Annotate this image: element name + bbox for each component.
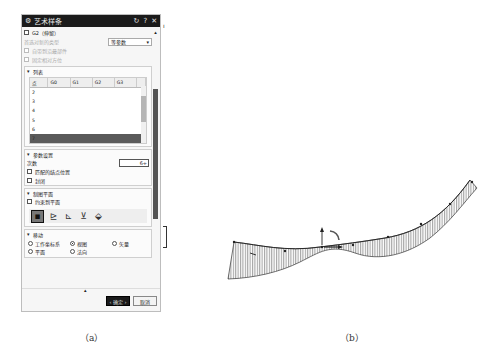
- caption-a: （a）: [80, 331, 103, 344]
- caption-b: （b）: [340, 331, 364, 344]
- spline-diagram: [0, 0, 490, 355]
